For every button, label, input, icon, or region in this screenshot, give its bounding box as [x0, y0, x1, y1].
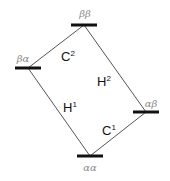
transition-label-c1: C1 — [102, 123, 116, 138]
transition-line-h1 — [28, 68, 90, 156]
level-bar-aa — [77, 155, 103, 158]
state-label-aa: αα — [83, 162, 97, 173]
transition-label-c2: C2 — [61, 49, 75, 64]
transition-label-h1: H1 — [63, 100, 77, 115]
level-bar-ba — [15, 67, 41, 70]
energy-level-diagram: ββ βα αβ αα C2 H2 H1 C1 — [0, 0, 170, 181]
state-label-ab: αβ — [145, 98, 158, 109]
level-bar-ab — [133, 111, 159, 114]
transition-label-h2: H2 — [97, 74, 111, 89]
transition-line-c1 — [90, 112, 146, 156]
transition-line-c2 — [28, 25, 84, 68]
state-label-bb: ββ — [78, 8, 91, 19]
level-bar-bb — [71, 24, 97, 27]
state-label-ba: βα — [16, 53, 30, 64]
transition-line-h2 — [84, 25, 146, 112]
